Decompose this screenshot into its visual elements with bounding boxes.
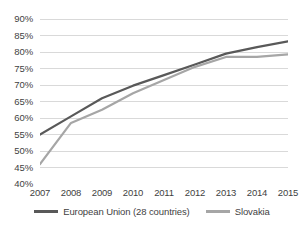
- x-tick-label: 2010: [117, 187, 149, 199]
- x-tick-label: 2008: [55, 187, 87, 199]
- legend-swatch-icon: [34, 210, 58, 213]
- y-tick-label: 55%: [0, 130, 33, 140]
- legend-entry[interactable]: Slovakia: [206, 206, 270, 217]
- series-line-1: [40, 54, 288, 164]
- y-tick-label: 60%: [0, 113, 33, 123]
- x-tick-label: 2013: [210, 187, 242, 199]
- y-tick-label: 45%: [0, 163, 33, 173]
- x-tick-label: 2011: [148, 187, 180, 199]
- y-axis: 90%85%80%75%70%65%60%55%50%45%40%: [0, 0, 36, 190]
- x-axis: 200720082009201020112012201320142015: [40, 187, 288, 201]
- legend-swatch-icon: [206, 210, 230, 213]
- y-tick-label: 90%: [0, 14, 33, 24]
- x-tick-label: 2015: [272, 187, 304, 199]
- chart-legend: European Union (28 countries)Slovakia: [0, 203, 304, 219]
- plot-svg: [40, 19, 288, 184]
- legend-label: European Union (28 countries): [63, 206, 189, 217]
- x-tick-label: 2012: [179, 187, 211, 199]
- x-tick-label: 2009: [86, 187, 118, 199]
- y-tick-label: 85%: [0, 31, 33, 41]
- y-tick-label: 75%: [0, 64, 33, 74]
- y-tick-label: 50%: [0, 146, 33, 156]
- y-tick-label: 65%: [0, 97, 33, 107]
- legend-label: Slovakia: [235, 206, 270, 217]
- plot-area: [40, 19, 288, 184]
- line-chart: 90%85%80%75%70%65%60%55%50%45%40% 200720…: [0, 0, 304, 228]
- y-tick-label: 70%: [0, 80, 33, 90]
- x-tick-label: 2007: [24, 187, 56, 199]
- y-tick-label: 80%: [0, 47, 33, 57]
- legend-entry[interactable]: European Union (28 countries): [34, 206, 189, 217]
- x-tick-label: 2014: [241, 187, 273, 199]
